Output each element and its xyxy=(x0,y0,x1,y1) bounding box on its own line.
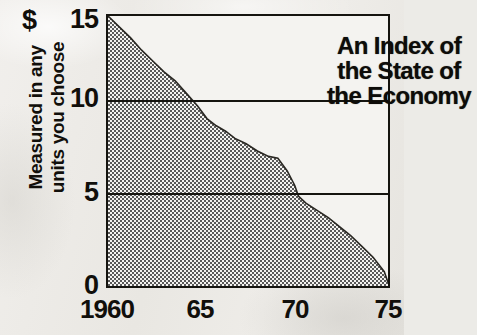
chart-title-line-1: An Index of xyxy=(303,34,477,59)
chart-title: An Index of the State of the Economy xyxy=(303,34,477,109)
y-axis-title-line-2: units you choose xyxy=(47,8,69,226)
chart-title-line-3: the Economy xyxy=(303,84,477,109)
x-axis-tick-65: 65 xyxy=(170,296,230,322)
plot-area: An Index of the State of the Economy xyxy=(106,14,390,288)
x-axis-tick-75: 75 xyxy=(358,296,418,322)
chart-title-line-2: the State of xyxy=(303,59,477,84)
gridline-value-5 xyxy=(108,193,388,195)
x-axis-tick-70: 70 xyxy=(265,296,325,322)
y-axis-title: Measured in any units you choose xyxy=(25,8,70,226)
y-axis-title-line-1: Measured in any xyxy=(25,8,47,226)
x-axis-tick-1960: 1960 xyxy=(62,296,152,322)
